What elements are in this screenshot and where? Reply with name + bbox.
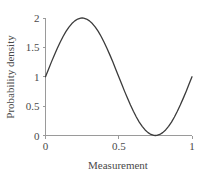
y-tick-label: 0.5 bbox=[26, 100, 40, 112]
probability-density-plot: 00.511.52 00.51 Measurement Probability … bbox=[0, 0, 203, 175]
x-tick-label: 0.5 bbox=[112, 140, 126, 152]
plot-background bbox=[0, 0, 203, 175]
y-tick-label: 1 bbox=[34, 71, 40, 83]
x-axis-label: Measurement bbox=[88, 159, 148, 171]
y-tick-label: 0 bbox=[34, 130, 40, 142]
y-axis-label: Probability density bbox=[4, 35, 16, 119]
x-tick-label: 1 bbox=[189, 140, 195, 152]
y-tick-label: 2 bbox=[34, 12, 40, 24]
x-tick-label: 0 bbox=[43, 140, 49, 152]
chart-figure: 00.511.52 00.51 Measurement Probability … bbox=[0, 0, 203, 175]
y-tick-label: 1.5 bbox=[26, 41, 40, 53]
